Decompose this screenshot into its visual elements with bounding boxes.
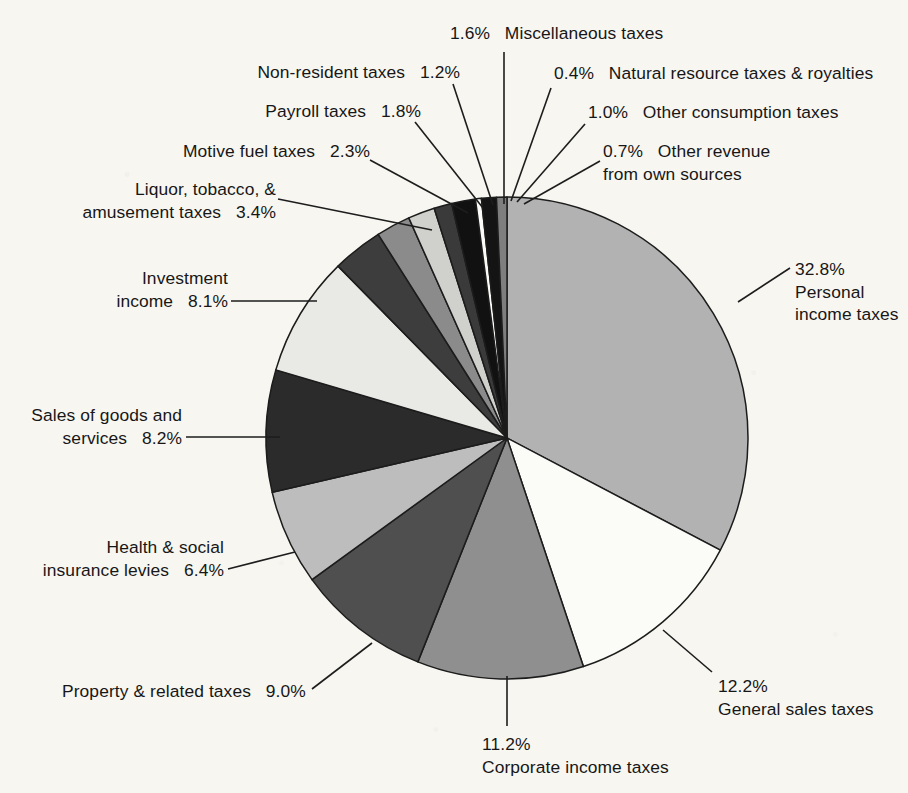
label-health-social-insurance-levies: Health & social insurance levies 6.4% — [0, 536, 224, 581]
label-health-social-line2: insurance levies 6.4% — [0, 559, 224, 582]
label-motive-fuel-name: Motive fuel taxes — [183, 141, 315, 161]
label-sales-goods-name2: services — [63, 428, 128, 448]
label-personal-pct: 32.8% — [795, 258, 899, 281]
label-personal-name: Personal — [795, 281, 899, 304]
label-payroll-pct: 1.8% — [381, 101, 421, 121]
label-health-social-name: Health & social — [0, 536, 224, 559]
label-other-revenue: 0.7% Other revenue from own sources — [603, 140, 770, 185]
leader-line-payroll — [415, 122, 483, 208]
leader-line-health-social — [228, 552, 295, 569]
label-motive-fuel-pct: 2.3% — [330, 141, 370, 161]
leader-line-other-revenue — [524, 161, 600, 204]
label-other-revenue-pct: 0.7% — [603, 141, 643, 161]
leader-line-liquor — [278, 199, 432, 230]
label-non-resident-taxes: Non-resident taxes 1.2% — [0, 61, 460, 84]
leader-line-other-consumption — [517, 124, 585, 202]
leader-line-general-sales — [663, 630, 712, 672]
label-sales-goods-line2: services 8.2% — [0, 427, 182, 450]
leader-line-non-resident — [453, 84, 493, 205]
label-sales-goods-name: Sales of goods and — [0, 404, 182, 427]
label-investment-income: Investment income 8.1% — [0, 267, 228, 312]
label-sales-goods-pct: 8.2% — [142, 428, 182, 448]
label-investment-name2: income — [116, 291, 173, 311]
label-sales-of-goods-and-services: Sales of goods and services 8.2% — [0, 404, 182, 449]
label-liquor-name2: amusement taxes — [82, 202, 221, 222]
label-corporate-income-taxes: 11.2% Corporate income taxes — [482, 733, 669, 778]
label-health-social-pct: 6.4% — [184, 560, 224, 580]
label-investment-pct: 8.1% — [188, 291, 228, 311]
label-natural-resource-taxes: 0.4% Natural resource taxes & royalties — [554, 62, 873, 85]
label-payroll-taxes: Payroll taxes 1.8% — [0, 100, 421, 123]
label-liquor-tobacco-amusement-taxes: Liquor, tobacco, & amusement taxes 3.4% — [0, 178, 276, 223]
label-natural-resource-pct: 0.4% — [554, 63, 594, 83]
label-miscellaneous-pct: 1.6% — [450, 23, 490, 43]
label-personal-name2: income taxes — [795, 303, 899, 326]
label-corporate-name: Corporate income taxes — [482, 756, 669, 779]
pie-slice-group — [266, 197, 748, 679]
label-general-sales-pct: 12.2% — [718, 675, 874, 698]
label-personal-income-taxes: 32.8% Personal income taxes — [795, 258, 899, 326]
label-motive-fuel-taxes: Motive fuel taxes 2.3% — [0, 140, 370, 163]
label-property-related-taxes: Property & related taxes 9.0% — [62, 680, 306, 703]
label-general-sales-name: General sales taxes — [718, 698, 874, 721]
label-liquor-name: Liquor, tobacco, & — [0, 178, 276, 201]
label-general-sales-taxes: 12.2% General sales taxes — [718, 675, 874, 720]
label-investment-line2: income 8.1% — [0, 290, 228, 313]
label-other-consumption-taxes: 1.0% Other consumption taxes — [588, 101, 838, 124]
label-other-consumption-name: Other consumption taxes — [643, 102, 839, 122]
label-miscellaneous-name: Miscellaneous taxes — [505, 23, 664, 43]
leader-line-personal — [738, 268, 790, 302]
label-corporate-pct: 11.2% — [482, 733, 669, 756]
leader-line-motive-fuel — [370, 160, 468, 213]
label-health-social-name2: insurance levies — [43, 560, 169, 580]
label-investment-name: Investment — [0, 267, 228, 290]
label-other-revenue-name2: from own sources — [603, 163, 770, 186]
label-other-consumption-pct: 1.0% — [588, 102, 628, 122]
label-other-revenue-name: Other revenue — [658, 141, 770, 161]
label-natural-resource-name: Natural resource taxes & royalties — [609, 63, 873, 83]
label-liquor-pct: 3.4% — [236, 202, 276, 222]
leader-line-natural-resource — [511, 88, 551, 201]
label-non-resident-pct: 1.2% — [420, 62, 460, 82]
label-payroll-name: Payroll taxes — [265, 101, 366, 121]
label-miscellaneous-taxes: 1.6% Miscellaneous taxes — [450, 22, 663, 45]
leader-line-property — [312, 643, 372, 689]
label-non-resident-name: Non-resident taxes — [257, 62, 405, 82]
pie-chart: 1.6% Miscellaneous taxes 0.4% Natural re… — [0, 0, 908, 793]
label-property-name: Property & related taxes — [62, 681, 251, 701]
label-liquor-line2: amusement taxes 3.4% — [0, 201, 276, 224]
label-property-pct: 9.0% — [266, 681, 306, 701]
